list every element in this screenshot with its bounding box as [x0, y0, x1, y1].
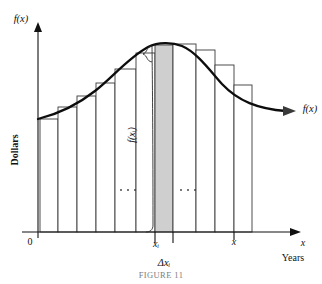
y-axis-arrowhead — [34, 22, 42, 32]
x-axis-name-label: Years — [282, 252, 304, 263]
riemann-sum-figure: f(x) Dollars 0 x Years f(x) f(xᵢ) xᵢ x Δ… — [0, 0, 322, 284]
curve-arrowhead — [283, 106, 296, 116]
rectangle-bar — [40, 119, 58, 232]
y-axis-top-label: f(x) — [14, 13, 29, 25]
rectangle-bar — [234, 85, 252, 232]
origin-label: 0 — [28, 236, 33, 247]
rectangle-bar-highlighted — [155, 45, 173, 232]
x-tick-label: x — [231, 236, 237, 247]
figure-container: f(x) Dollars 0 x Years f(x) f(xᵢ) xᵢ x Δ… — [0, 0, 322, 284]
width-label: Δxᵢ — [157, 257, 171, 268]
height-label: f(xᵢ) — [126, 127, 138, 143]
rectangle-group — [40, 44, 252, 232]
rectangle-bar — [196, 50, 215, 232]
rectangle-bar — [58, 107, 77, 232]
rectangle-bar — [173, 44, 196, 232]
rectangle-bar — [115, 69, 136, 232]
x-axis-arrowhead — [290, 228, 301, 236]
x-axis-end-label: x — [300, 237, 306, 248]
curve-label: f(x) — [303, 103, 318, 115]
rectangle-bar — [96, 83, 115, 232]
rectangle-bar — [215, 65, 234, 232]
rectangle-bar — [77, 96, 96, 232]
y-axis-name-label: Dollars — [9, 134, 20, 165]
figure-caption: FIGURE 11 — [0, 270, 322, 280]
subinterval-point-label: xᵢ — [152, 238, 159, 249]
